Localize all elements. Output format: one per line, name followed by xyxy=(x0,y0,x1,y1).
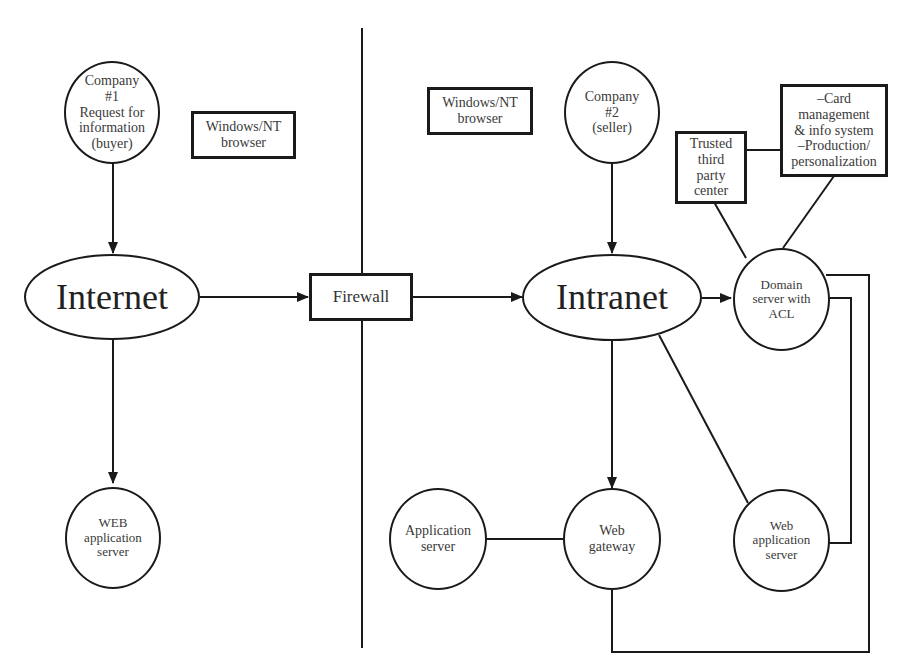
web-gateway-node: Web gateway xyxy=(563,488,661,590)
network-diagram: Company #1 Request for information (buye… xyxy=(0,0,904,672)
web-app-server-left-node: WEB application server xyxy=(65,487,161,589)
browser1-box: Windows/NT browser xyxy=(191,111,296,159)
domain-server-label: Domain server with ACL xyxy=(752,278,810,322)
web-app-server-right-label: Web application server xyxy=(753,519,811,563)
firewall-box: Firewall xyxy=(309,273,413,321)
card-management-label: –Card management & info system –Producti… xyxy=(791,91,877,169)
firewall-label: Firewall xyxy=(333,287,390,306)
trusted-third-party-box: Trusted third party center xyxy=(675,131,747,204)
browser2-box: Windows/NT browser xyxy=(427,87,533,135)
intranet-node: Intranet xyxy=(522,254,702,341)
card-management-box: –Card management & info system –Producti… xyxy=(780,84,888,177)
internet-label: Internet xyxy=(56,277,168,317)
company2-label: Company #2 (seller) xyxy=(585,89,639,136)
browser2-label: Windows/NT browser xyxy=(442,95,518,126)
application-server-node: Application server xyxy=(389,488,487,590)
internet-node: Internet xyxy=(24,254,200,340)
company1-node: Company #1 Request for information (buye… xyxy=(64,61,160,164)
domain-server-node: Domain server with ACL xyxy=(733,248,830,351)
web-gateway-label: Web gateway xyxy=(589,523,636,554)
application-server-label: Application server xyxy=(405,523,471,554)
company2-node: Company #2 (seller) xyxy=(564,61,660,164)
company1-label: Company #1 Request for information (buye… xyxy=(79,73,145,151)
intranet-label: Intranet xyxy=(556,277,668,317)
browser1-label: Windows/NT browser xyxy=(206,119,282,150)
trusted-third-party-label: Trusted third party center xyxy=(690,136,732,199)
web-app-server-left-label: WEB application server xyxy=(84,516,142,560)
web-app-server-right-node: Web application server xyxy=(733,489,830,592)
